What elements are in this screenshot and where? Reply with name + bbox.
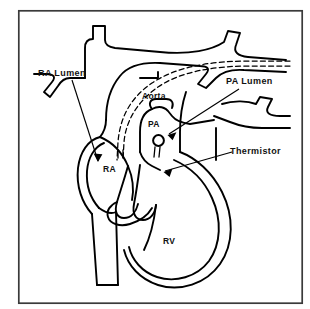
heart-catheter-diagram: RA Lumen PA Lumen Thermistor Aorta PA RA… <box>0 0 310 309</box>
label-rv: RV <box>163 236 175 246</box>
diagram-canvas: RA Lumen PA Lumen Thermistor Aorta PA RA… <box>0 0 310 309</box>
label-thermistor: Thermistor <box>230 146 281 156</box>
label-pa-lumen: PA Lumen <box>226 76 273 86</box>
label-aorta: Aorta <box>142 91 166 101</box>
label-ra: RA <box>103 164 116 174</box>
label-ra-lumen: RA Lumen <box>38 68 86 78</box>
thermistor-bead <box>153 135 164 146</box>
label-pa: PA <box>148 119 160 129</box>
